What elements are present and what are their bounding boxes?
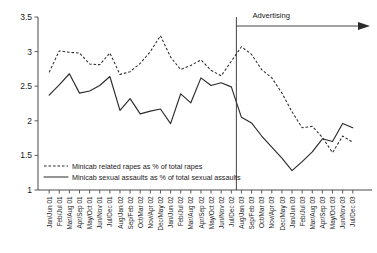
- y-tick-label: 1.5: [20, 150, 32, 160]
- chart-container: 3.532.521.51 Jan/Jun 01Feb/Jul 01Mar/Aug…: [0, 0, 377, 253]
- y-axis-ticks: [35, 17, 39, 190]
- advertising-annotation: Advertising: [236, 11, 370, 190]
- y-tick-label: 3: [27, 47, 32, 57]
- y-tick-label: 2.5: [20, 81, 32, 91]
- x-tick-label: Aug/Jan 03: [238, 196, 246, 229]
- x-tick-label: Sep/Feb 03: [248, 196, 256, 229]
- x-tick-label: Mar/Aug 01: [66, 196, 74, 229]
- x-tick-label: Jul/Dec 01: [106, 196, 113, 227]
- x-tick-label: May/Oct 01: [86, 196, 94, 229]
- x-tick-label: Aug/Jan 02: [117, 196, 125, 229]
- x-tick-label: Apr/Sep 02: [198, 196, 206, 228]
- x-axis: Jan/Jun 01Feb/Jul 01Mar/Aug 01Apr/Sep 01…: [38, 190, 372, 231]
- x-tick-label: Mar/Aug 03: [309, 196, 317, 229]
- x-tick-label: Feb/Jul 03: [299, 196, 306, 226]
- y-axis-tick-labels: 3.532.521.51: [20, 12, 32, 195]
- series-line-minicab-sexual-assaults: [49, 74, 353, 171]
- x-tick-label: Jan/Jun 03: [289, 196, 296, 228]
- x-tick-label: May/Oct 03: [329, 196, 337, 229]
- x-tick-label: Jul/Dec 02: [228, 196, 235, 227]
- legend-label-minicab-related-rapes: Minicab related rapes as % of total rape…: [72, 162, 203, 171]
- y-axis: 3.532.521.51: [20, 12, 38, 195]
- x-tick-label: Nov/Apr 03: [268, 196, 276, 228]
- x-tick-label: Jul/Dec 03: [349, 196, 356, 227]
- y-tick-label: 1: [27, 185, 32, 195]
- x-axis-ticks: [49, 190, 353, 194]
- advertising-arrow-head-icon: [358, 22, 370, 30]
- x-tick-label: Oct/Mar 03: [258, 196, 265, 228]
- x-tick-label: Dec/May 02: [157, 196, 165, 231]
- x-tick-label: Jun/Nov 03: [339, 196, 346, 229]
- x-tick-label: Nov/Apr 02: [147, 196, 155, 228]
- x-tick-label: May/Oct 02: [208, 196, 216, 229]
- legend-label-minicab-sexual-assaults: Minicab sexual assaults as % of total se…: [72, 173, 241, 182]
- x-tick-label: Sep/Feb 02: [127, 196, 135, 229]
- x-tick-label: Jan/Jun 02: [167, 196, 174, 228]
- x-tick-label: Apr/Sep 01: [76, 196, 84, 228]
- data-series-group: [49, 36, 353, 171]
- chart-legend: Minicab related rapes as % of total rape…: [44, 162, 241, 182]
- x-tick-label: Mar/Aug 02: [187, 196, 195, 229]
- x-tick-label: Jan/Jun 01: [46, 196, 53, 228]
- y-tick-label: 2: [27, 116, 32, 126]
- x-tick-label: Feb/Jul 01: [56, 196, 63, 226]
- x-tick-label: Apr/Sep 03: [319, 196, 327, 228]
- x-axis-tick-labels: Jan/Jun 01Feb/Jul 01Mar/Aug 01Apr/Sep 01…: [46, 196, 357, 231]
- x-tick-label: Dec/May 03: [279, 196, 287, 231]
- line-chart: 3.532.521.51 Jan/Jun 01Feb/Jul 01Mar/Aug…: [0, 0, 377, 253]
- x-tick-label: Jun/Nov 01: [96, 196, 103, 229]
- x-tick-label: Jun/Nov 02: [218, 196, 225, 229]
- advertising-label: Advertising: [252, 11, 290, 20]
- series-line-minicab-related-rapes: [49, 36, 353, 153]
- x-tick-label: Oct/Mar 02: [137, 196, 144, 228]
- x-tick-label: Feb/Jul 02: [177, 196, 184, 226]
- y-tick-label: 3.5: [20, 12, 32, 22]
